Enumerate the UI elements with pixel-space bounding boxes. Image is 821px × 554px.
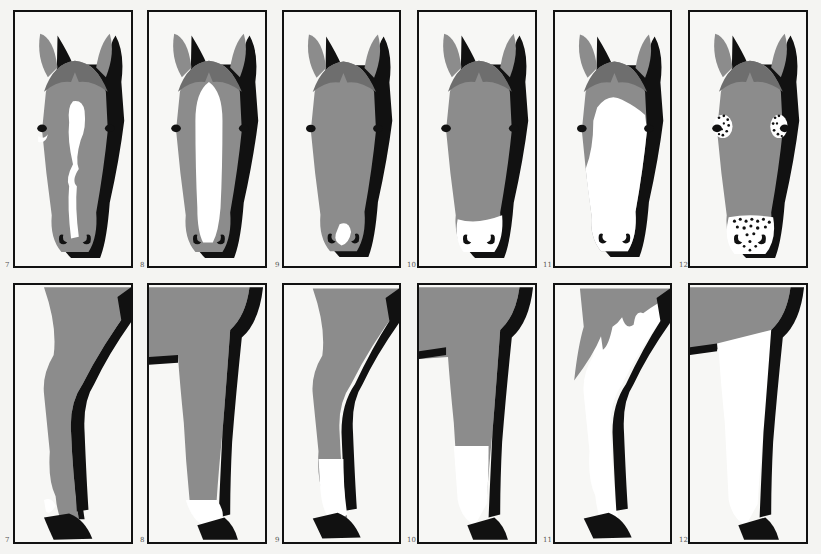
face-panel-8 (147, 10, 267, 268)
leg-panel-10 (417, 283, 537, 544)
face-panel-11 (553, 10, 672, 268)
face-panel-7 (13, 10, 133, 268)
leg-panel-8 (147, 283, 267, 544)
face-number-12: 12 (679, 262, 688, 269)
leg-panel-12 (688, 283, 808, 544)
horse-face-illustration (15, 12, 131, 266)
leg-panel-9 (282, 283, 401, 544)
leg-number-7: 7 (5, 537, 9, 544)
leg-number-9: 9 (275, 537, 279, 544)
leg-number-11: 11 (543, 537, 552, 544)
leg-number-10: 10 (407, 537, 416, 544)
face-number-9: 9 (275, 262, 279, 269)
eye-icon (37, 125, 47, 133)
leg-panel-11 (553, 283, 672, 544)
face-number-7: 7 (5, 262, 9, 269)
face-number-11: 11 (543, 262, 552, 269)
leg-number-8: 8 (140, 537, 144, 544)
leg-number-12: 12 (679, 537, 688, 544)
face-panel-12 (688, 10, 808, 268)
leg-panel-7 (13, 283, 133, 544)
face-number-10: 10 (407, 262, 416, 269)
face-panel-9 (282, 10, 401, 268)
eye-icon (105, 125, 115, 133)
face-panel-10 (417, 10, 537, 268)
face-number-8: 8 (140, 262, 144, 269)
